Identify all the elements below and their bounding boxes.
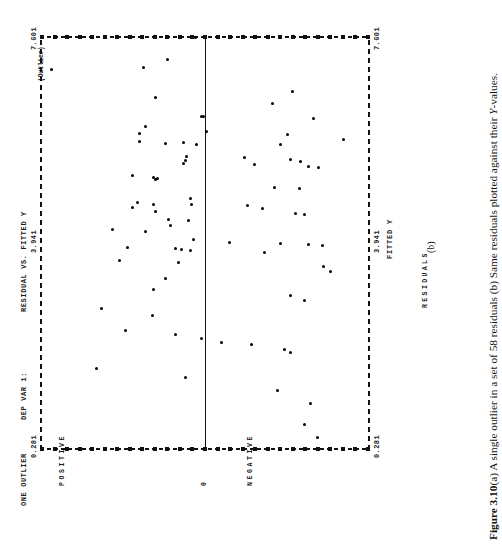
axis-tick xyxy=(115,447,119,451)
scatter-plot-area: (Outlier) 0.281 3.941 7.601 0.281 3.941 … xyxy=(40,36,370,450)
axis-tick xyxy=(140,447,144,451)
axis-tick xyxy=(291,35,295,39)
axis-tick xyxy=(328,35,332,39)
data-point xyxy=(190,203,193,206)
axis-tick xyxy=(40,35,44,39)
x-axis-title: FITTED Y xyxy=(386,219,394,259)
data-point xyxy=(246,204,249,207)
axis-tick xyxy=(165,447,169,451)
data-point xyxy=(220,341,223,344)
plot-title: RESIDUAL VS. FITTED Y xyxy=(20,211,28,312)
data-point xyxy=(243,156,246,159)
axis-tick xyxy=(103,447,107,451)
x-tick-label-high-right: 7.601 xyxy=(373,27,381,50)
axis-tick xyxy=(90,35,94,39)
plot-frame-top xyxy=(40,36,42,450)
data-point xyxy=(303,213,306,216)
caption-text: (a) A single outlier in a set of 58 resi… xyxy=(487,115,499,486)
axis-tick xyxy=(228,35,232,39)
y-axis-title: RESIDUALS xyxy=(422,251,429,308)
axis-tick xyxy=(203,447,207,451)
data-point xyxy=(279,143,282,146)
data-point xyxy=(174,247,177,250)
data-point xyxy=(303,423,306,426)
caption-text-end: -values. xyxy=(487,73,499,108)
axis-tick xyxy=(153,447,157,451)
x-tick-label-low-left: 0.281 xyxy=(30,435,38,458)
zero-reference-line xyxy=(205,36,206,450)
data-point xyxy=(291,90,294,93)
data-point xyxy=(261,207,264,210)
data-point xyxy=(200,337,203,340)
axis-tick xyxy=(291,447,295,451)
data-point xyxy=(138,132,141,135)
axis-tick xyxy=(78,447,82,451)
data-point xyxy=(154,210,157,213)
outlier-data-point xyxy=(50,68,53,71)
data-point xyxy=(253,163,256,166)
plot-block: ONE OUTLIER DEP VAR 1: RESIDUAL VS. FITT… xyxy=(18,8,448,508)
data-point xyxy=(312,117,315,120)
axis-tick xyxy=(165,35,169,39)
panel-letter: (b) xyxy=(425,241,436,253)
data-point xyxy=(263,251,266,254)
axis-tick xyxy=(40,447,44,451)
data-point xyxy=(185,155,188,158)
data-point xyxy=(166,58,169,61)
data-point xyxy=(151,314,154,317)
data-point xyxy=(322,265,325,268)
data-point xyxy=(154,96,157,99)
axis-tick xyxy=(241,447,245,451)
data-point xyxy=(298,187,301,190)
data-point xyxy=(124,329,127,332)
data-point xyxy=(169,224,172,227)
plot-frame-bottom xyxy=(368,36,370,450)
axis-tick xyxy=(78,35,82,39)
axis-tick xyxy=(303,35,307,39)
data-point xyxy=(294,212,297,215)
data-point xyxy=(309,402,312,405)
y-axis-zero-label: 0 xyxy=(201,482,208,486)
data-point xyxy=(182,141,185,144)
data-point xyxy=(144,230,147,233)
axis-tick xyxy=(53,447,57,451)
data-point xyxy=(289,294,292,297)
data-point xyxy=(184,376,187,379)
data-point xyxy=(283,348,286,351)
caption-italic: Y xyxy=(487,108,499,114)
data-point xyxy=(180,248,183,251)
data-point xyxy=(131,206,134,209)
data-point xyxy=(195,143,198,146)
data-point xyxy=(321,244,324,247)
axis-tick xyxy=(103,35,107,39)
axis-tick xyxy=(90,447,94,451)
data-point xyxy=(329,270,332,273)
data-point xyxy=(279,242,282,245)
data-point xyxy=(144,125,147,128)
axis-tick xyxy=(303,447,307,451)
outlier-annotation: (Outlier) xyxy=(38,46,45,81)
data-point xyxy=(307,165,310,168)
x-tick-label-high-left: 7.601 xyxy=(30,27,38,50)
data-point xyxy=(250,343,253,346)
x-tick-label-mid-left: 3.941 xyxy=(30,230,38,253)
data-point xyxy=(131,174,134,177)
data-point xyxy=(276,389,279,392)
data-point xyxy=(136,201,139,204)
dep-var-label: DEP VAR 1: xyxy=(20,372,28,420)
axis-tick xyxy=(328,447,332,451)
axis-tick xyxy=(341,35,345,39)
figure-number: Figure 3.10 xyxy=(487,486,499,540)
data-point xyxy=(271,102,274,105)
data-point xyxy=(177,261,180,264)
run-title: ONE OUTLIER xyxy=(20,453,28,506)
data-point xyxy=(174,333,177,336)
data-point xyxy=(152,288,155,291)
axis-tick xyxy=(203,35,207,39)
data-point xyxy=(142,66,145,69)
data-point xyxy=(194,36,197,39)
axis-tick xyxy=(353,447,357,451)
axis-tick xyxy=(53,35,57,39)
data-point xyxy=(95,367,98,370)
data-point xyxy=(152,203,155,206)
